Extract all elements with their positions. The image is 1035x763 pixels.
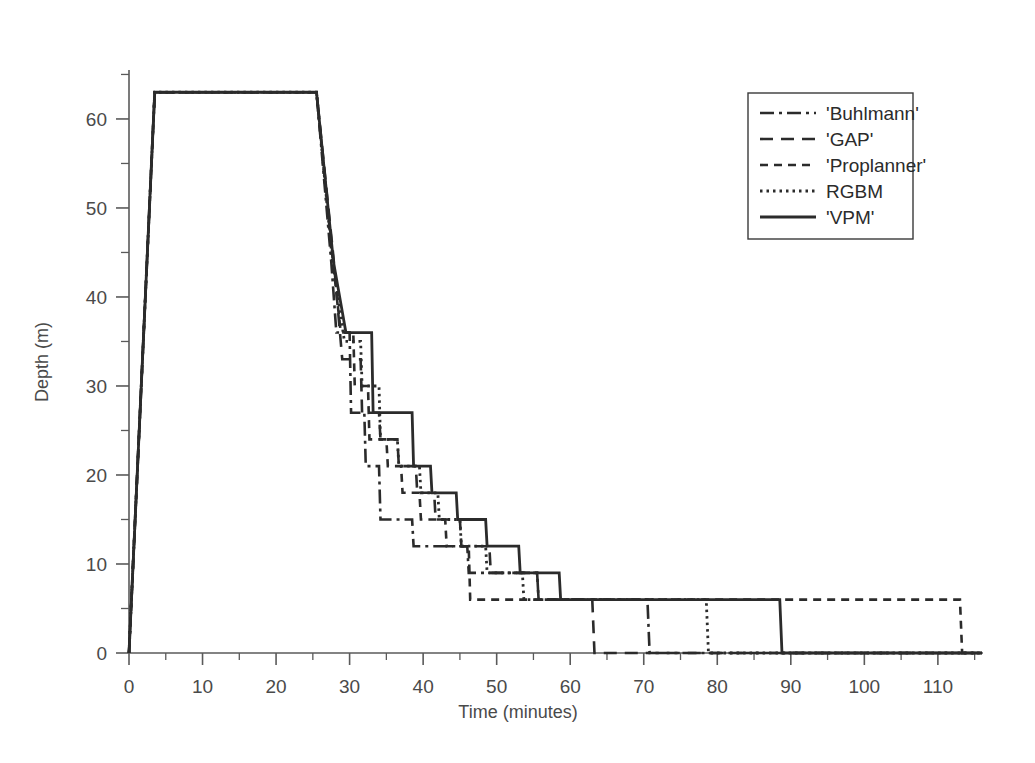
x-tick-label: 20 xyxy=(265,676,286,697)
y-tick-label: 50 xyxy=(86,198,107,219)
y-tick-label: 40 xyxy=(86,287,107,308)
x-tick-label: 100 xyxy=(848,676,880,697)
x-tick-label: 40 xyxy=(413,676,434,697)
y-tick-label: 30 xyxy=(86,376,107,397)
x-tick-label: 110 xyxy=(923,676,953,697)
x-tick-label: 30 xyxy=(339,676,360,697)
legend: 'Buhlmann''GAP''Proplanner'RGBM'VPM' xyxy=(748,93,926,239)
x-tick-label: 0 xyxy=(124,676,135,697)
y-tick-label: 0 xyxy=(96,643,107,664)
x-tick-label: 80 xyxy=(707,676,728,697)
x-tick-label: 70 xyxy=(633,676,654,697)
legend-label-gap: 'GAP' xyxy=(826,129,873,150)
y-tick-label: 60 xyxy=(86,109,107,130)
plot-area: 01020304050607080901001100102030405060 '… xyxy=(0,0,1035,763)
x-tick-label: 50 xyxy=(486,676,507,697)
x-tick-label: 10 xyxy=(192,676,213,697)
y-tick-label: 20 xyxy=(86,465,107,486)
y-tick-label: 10 xyxy=(86,554,107,575)
legend-label-vpm: 'VPM' xyxy=(826,207,874,228)
x-tick-label: 60 xyxy=(560,676,581,697)
legend-label-proplanner: 'Proplanner' xyxy=(826,155,926,176)
y-axis-title: Depth (m) xyxy=(32,322,52,402)
legend-label-buhlmann: 'Buhlmann' xyxy=(826,103,919,124)
x-tick-label: 90 xyxy=(780,676,801,697)
legend-label-rgbm: RGBM xyxy=(826,181,883,202)
dive-profile-chart: 01020304050607080901001100102030405060 '… xyxy=(0,0,1035,763)
x-axis-title: Time (minutes) xyxy=(458,702,577,722)
